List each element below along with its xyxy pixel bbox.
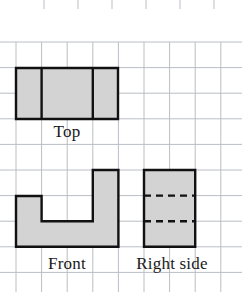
front-view-outline: [16, 170, 118, 247]
right-side-view-shape: [144, 170, 195, 247]
orthographic-views: [0, 0, 242, 292]
worksheet-figure: Top Front Right side: [0, 0, 242, 292]
top-view-outline: [16, 68, 118, 119]
front-view-shape: [16, 170, 118, 247]
right-side-view-outline: [144, 170, 195, 247]
top-view-shape: [16, 68, 118, 119]
